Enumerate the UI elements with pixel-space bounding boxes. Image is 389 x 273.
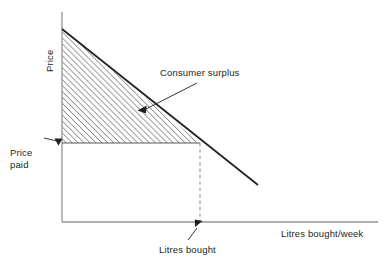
x-axis-label: Litres bought/week xyxy=(281,228,363,240)
litres-bought-label: Litres bought xyxy=(159,244,216,256)
price-paid-label-line1: Price xyxy=(10,147,32,158)
consumer-surplus-leader-line xyxy=(146,83,197,109)
consumer-surplus-label: Consumer surplus xyxy=(160,67,240,79)
price-paid-label-line2: paid xyxy=(10,159,32,171)
litres-bought-leader-line xyxy=(188,228,197,240)
y-axis-label: Price xyxy=(44,12,56,34)
figure-canvas: Price Price paid Consumer surplus Litres… xyxy=(0,0,389,273)
y-axis-label-text: Price xyxy=(44,50,56,72)
litres-bought-arrow-icon xyxy=(195,220,203,228)
price-paid-label: Price paid xyxy=(10,147,32,171)
price-paid-arrow-icon xyxy=(55,139,63,146)
price-paid-leader-line xyxy=(44,138,57,141)
